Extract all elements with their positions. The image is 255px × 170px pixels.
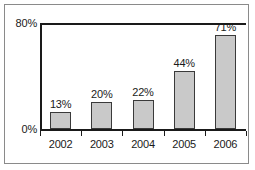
bar-value-label-2006: 71% (205, 21, 245, 33)
bar-2002 (50, 112, 71, 129)
x-axis-tick (122, 131, 123, 136)
x-axis-label-2006: 2006 (205, 138, 245, 150)
x-axis-line (40, 129, 246, 131)
bar-2004 (133, 100, 154, 129)
bar-2005 (174, 71, 195, 129)
x-axis-tick (205, 131, 206, 136)
bar-value-label-2005: 44% (164, 57, 204, 69)
y-axis-tick-label-min: 0% (5, 123, 37, 135)
bar-2006 (215, 35, 236, 129)
x-axis-tick (246, 131, 247, 136)
y-axis-tick-label-max: 80% (5, 17, 37, 29)
bar-value-label-2002: 13% (41, 98, 81, 110)
x-axis-label-2005: 2005 (164, 138, 204, 150)
x-axis-label-2004: 2004 (123, 138, 163, 150)
x-axis-label-2002: 2002 (41, 138, 81, 150)
chart-frame: 80% 0% 13%20%22%44%71% 20022003200420052… (4, 4, 249, 164)
x-axis-tick (40, 131, 41, 136)
x-axis-tick (81, 131, 82, 136)
x-axis-tick (164, 131, 165, 136)
bar-2003 (91, 102, 112, 129)
bar-value-label-2004: 22% (123, 86, 163, 98)
bar-value-label-2003: 20% (82, 88, 122, 100)
x-axis-label-2003: 2003 (82, 138, 122, 150)
